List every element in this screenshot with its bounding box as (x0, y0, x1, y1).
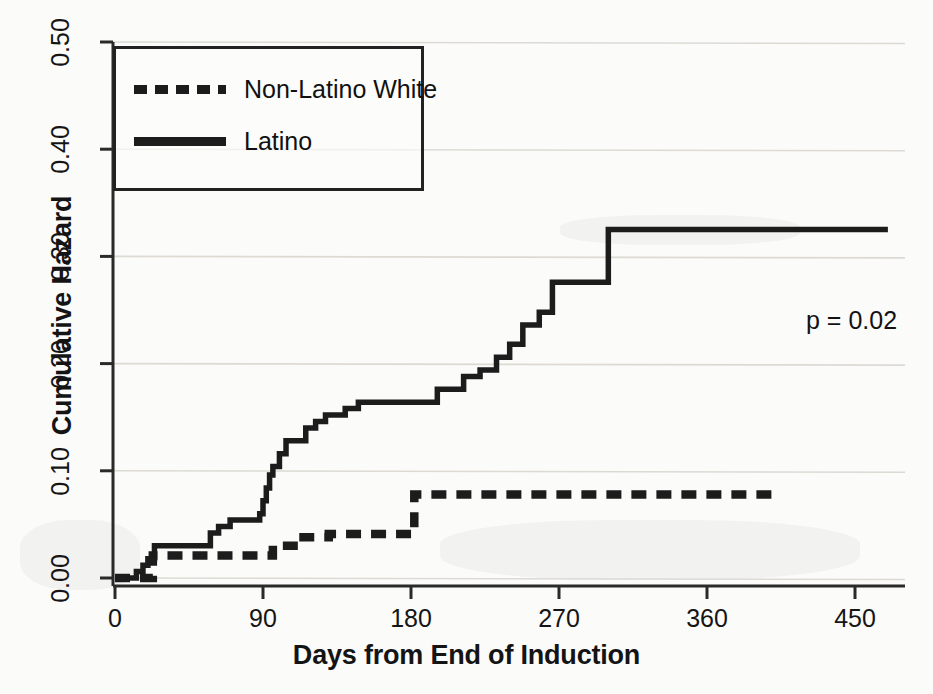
x-tick-label: 0 (75, 604, 155, 633)
series-line-non-latino-white (115, 494, 781, 578)
gridline-y (113, 364, 905, 366)
gridline-y (113, 42, 905, 44)
gridline-y (113, 578, 905, 580)
y-tick-label: 0.50 (46, 3, 75, 83)
x-tick-label: 180 (371, 604, 451, 633)
x-axis-title: Days from End of Induction (0, 640, 933, 671)
legend-swatch-dashed-icon (134, 85, 226, 94)
gridline-y (113, 256, 905, 258)
x-tick-label: 450 (815, 604, 895, 633)
legend-swatch-solid-icon (134, 137, 226, 146)
y-tick-label: 0.40 (46, 110, 75, 190)
y-tick-label: 0.30 (46, 217, 75, 297)
x-tick-label: 360 (667, 604, 747, 633)
legend-entry-latino: Latino (116, 121, 421, 161)
y-tick-label: 0.10 (46, 431, 75, 511)
data-series (115, 230, 888, 578)
p-value-annotation: p = 0.02 (806, 306, 897, 335)
gridline-y (113, 471, 905, 473)
legend-label-latino: Latino (244, 127, 312, 156)
cumulative-hazard-chart: Non-Latino White Latino p = 0.02 Days fr… (0, 0, 933, 694)
legend-label-non-latino-white: Non-Latino White (244, 75, 437, 104)
y-tick-label: 0.00 (46, 539, 75, 619)
x-tick-label: 270 (519, 604, 599, 633)
legend: Non-Latino White Latino (113, 46, 424, 191)
y-tick-label: 0.20 (46, 324, 75, 404)
x-tick-label: 90 (223, 604, 303, 633)
legend-entry-non-latino-white: Non-Latino White (116, 69, 421, 109)
series-line-latino (115, 230, 888, 578)
